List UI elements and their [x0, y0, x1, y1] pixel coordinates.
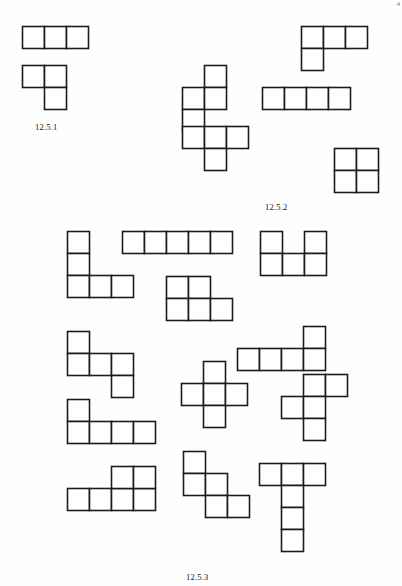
- polyomino-cell: [282, 508, 304, 530]
- polyomino-cell: [357, 149, 379, 171]
- polyomino-cell: [283, 254, 305, 276]
- polyomino-cell: [68, 232, 90, 254]
- polyomino-cell: [304, 327, 326, 349]
- polyomino-cell: [324, 27, 346, 49]
- polyomino-u-pentomino: [259, 230, 328, 277]
- polyomino-w-pentomino: [66, 330, 135, 399]
- polyomino-i-tetromino: [261, 86, 352, 111]
- polyomino-cell: [304, 397, 326, 419]
- polyomino-cell: [304, 464, 326, 486]
- polyomino-cell: [304, 375, 326, 397]
- polyomino-o-tetromino: [333, 147, 380, 194]
- polyomino-cell: [204, 362, 226, 384]
- polyomino-cell: [261, 232, 283, 254]
- polyomino-t-pentomino: [258, 462, 327, 553]
- polyomino-p-pentomino: [165, 275, 234, 322]
- polyomino-cell: [68, 276, 90, 298]
- polyomino-cell: [282, 464, 304, 486]
- polyomino-cell: [305, 254, 327, 276]
- polyomino-cell: [263, 88, 285, 110]
- polyomino-l-pentomino: [66, 398, 157, 445]
- polyomino-cell: [112, 354, 134, 376]
- polyomino-cell: [68, 400, 90, 422]
- polyomino-cell: [45, 66, 67, 88]
- polyomino-n-pentomino: [182, 450, 251, 519]
- polyomino-t-pentomino-right: [280, 373, 349, 442]
- polyomino-cell: [205, 149, 227, 171]
- polyomino-cell: [123, 232, 145, 254]
- polyomino-s-tetromino: [181, 64, 228, 133]
- polyomino-cell: [307, 88, 329, 110]
- polyomino-cell: [304, 419, 326, 441]
- polyomino-t-tetromino: [181, 125, 250, 172]
- polyomino-cell: [112, 422, 134, 444]
- figure-page: 4 12.5.112.5.212.5.3: [0, 0, 402, 586]
- polyomino-cell: [134, 467, 156, 489]
- polyomino-cell: [228, 496, 250, 518]
- polyomino-cell: [226, 384, 248, 406]
- polyomino-cell: [357, 171, 379, 193]
- polyomino-cell: [90, 276, 112, 298]
- polyomino-cell: [189, 232, 211, 254]
- polyomino-cell: [304, 349, 326, 371]
- polyomino-cell: [90, 354, 112, 376]
- polyomino-cell: [112, 489, 134, 511]
- polyomino-z-pentomino-tail: [110, 465, 157, 490]
- polyomino-l-tromino: [21, 64, 68, 111]
- polyomino-cell: [68, 489, 90, 511]
- polyomino-cell: [302, 27, 324, 49]
- polyomino-cell: [305, 232, 327, 254]
- polyomino-cell: [260, 349, 282, 371]
- page-corner-mark: 4: [397, 0, 401, 8]
- polyomino-cell: [134, 422, 156, 444]
- polyomino-cell: [204, 384, 226, 406]
- polyomino-cell: [261, 254, 283, 276]
- polyomino-cell: [184, 452, 206, 474]
- polyomino-cell: [68, 354, 90, 376]
- polyomino-cell: [260, 464, 282, 486]
- polyomino-cell: [167, 232, 189, 254]
- polyomino-cell: [211, 299, 233, 321]
- polyomino-cell: [23, 27, 45, 49]
- polyomino-cell: [134, 489, 156, 511]
- caption-fig-12-5-2: 12.5.2: [265, 202, 287, 212]
- polyomino-cell: [23, 66, 45, 88]
- polyomino-l-pentomino-left: [236, 325, 327, 372]
- polyomino-cell: [90, 489, 112, 511]
- polyomino-cell: [189, 299, 211, 321]
- polyomino-cell: [346, 27, 368, 49]
- polyomino-cell: [302, 49, 324, 71]
- polyomino-i-pentomino: [121, 230, 234, 255]
- polyomino-cell: [329, 88, 351, 110]
- polyomino-cell: [282, 349, 304, 371]
- polyomino-cell: [182, 384, 204, 406]
- polyomino-cell: [67, 27, 89, 49]
- polyomino-cell: [112, 276, 134, 298]
- polyomino-cell: [282, 530, 304, 552]
- polyomino-cell: [68, 422, 90, 444]
- polyomino-cell: [282, 486, 304, 508]
- polyomino-cell: [68, 254, 90, 276]
- polyomino-cell: [335, 171, 357, 193]
- polyomino-cell: [282, 397, 304, 419]
- polyomino-cell: [204, 406, 226, 428]
- polyomino-i-tromino: [21, 25, 90, 50]
- polyomino-cell: [205, 127, 227, 149]
- polyomino-cell: [45, 88, 67, 110]
- polyomino-cell: [167, 299, 189, 321]
- polyomino-j-tetromino: [300, 25, 369, 72]
- polyomino-cell: [183, 88, 205, 110]
- polyomino-cell: [205, 88, 227, 110]
- polyomino-cell: [211, 232, 233, 254]
- polyomino-cell: [189, 277, 211, 299]
- polyomino-cell: [90, 422, 112, 444]
- polyomino-cell: [335, 149, 357, 171]
- polyomino-cell: [45, 27, 67, 49]
- polyomino-cell: [205, 66, 227, 88]
- polyomino-cell: [112, 467, 134, 489]
- polyomino-cell: [68, 332, 90, 354]
- polyomino-cell: [112, 376, 134, 398]
- polyomino-cell: [227, 127, 249, 149]
- polyomino-cell: [206, 474, 228, 496]
- polyomino-plus-pentomino: [180, 360, 249, 429]
